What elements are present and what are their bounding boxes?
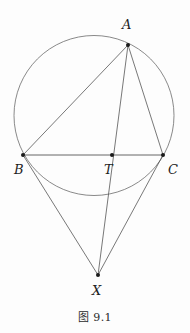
vertex-dot-C <box>161 153 165 157</box>
vertex-label-B: B <box>14 163 24 176</box>
segment-AB <box>23 45 128 155</box>
vertex-label-C: C <box>168 163 178 176</box>
segment-AC <box>128 45 163 155</box>
vertex-dot-T <box>110 153 114 157</box>
figure-caption: 图 9.1 <box>0 308 190 324</box>
vertex-dot-B <box>21 153 25 157</box>
vertex-label-A: A <box>122 18 131 31</box>
circumcircle <box>14 36 174 196</box>
vertex-label-T: T <box>104 163 113 176</box>
segment-AX <box>98 45 128 275</box>
vertex-dot-A <box>126 43 130 47</box>
vertex-dot-X <box>96 273 100 277</box>
geometry-figure: A B C T X 图 9.1 <box>0 0 190 333</box>
vertex-label-X: X <box>92 284 101 297</box>
segment-BX <box>23 155 98 275</box>
